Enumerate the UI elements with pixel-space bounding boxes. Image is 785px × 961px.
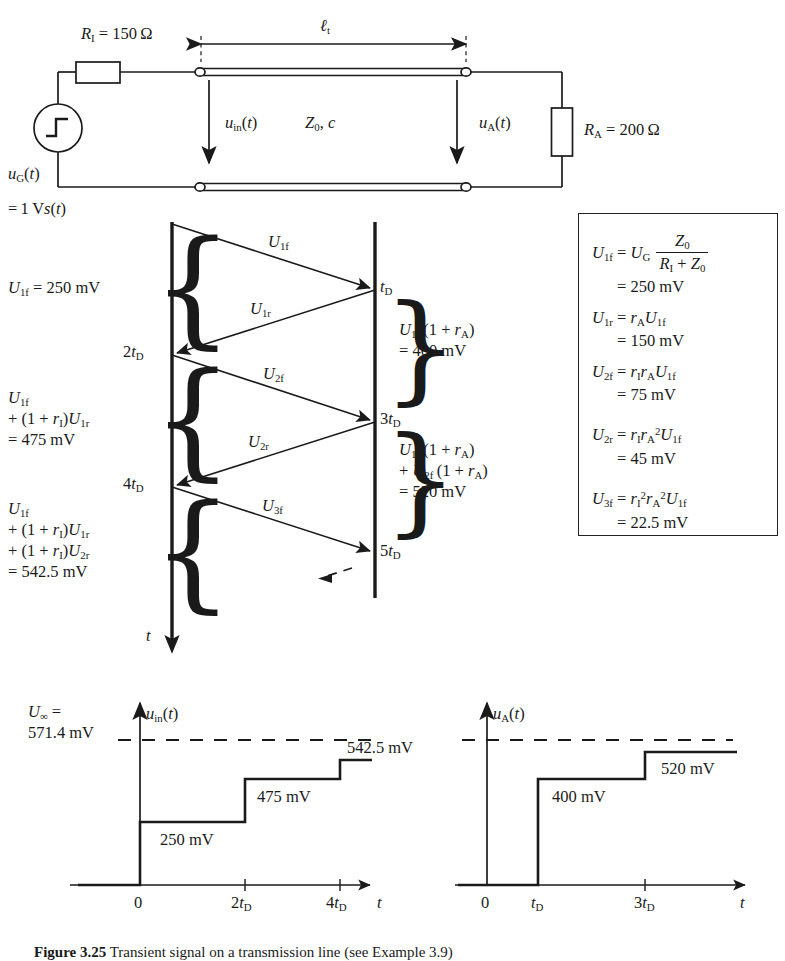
plot-left-origin: 0: [134, 893, 142, 912]
plot-right-tick-label-td: tD: [531, 893, 543, 914]
plot-right-step-400: 400 mV: [552, 787, 606, 806]
lattice-label-u2r: U2r: [248, 432, 269, 453]
lattice-label-u2f: U2f: [263, 364, 284, 385]
resistor-ri-body: [76, 62, 120, 83]
formula-entry-u3f: U3f = rI2rA2U1f: [592, 489, 687, 510]
brace-left-1: {: [152, 222, 233, 352]
lattice-annotation-left-2: U1f + (1 + rI)U1r = 475 mV: [8, 388, 89, 449]
lattice-time-axis-label: t: [146, 626, 151, 645]
formula-result-u3f: = 22.5 mV: [617, 513, 688, 532]
continuation-arrow: [318, 568, 352, 583]
label-u-g-value: = 1 Vs(t): [8, 199, 66, 218]
brace-left-2: {: [152, 354, 233, 484]
lattice-annotation-left-3: U1f + (1 + rI)U1r + (1 + rI)U2r = 542.5 …: [8, 499, 89, 581]
plot-left-step-250: 250 mV: [160, 830, 214, 849]
label-line-length: ℓt: [320, 16, 330, 37]
label-ra: RA = 200 Ω: [584, 120, 660, 141]
plot-asymptote-label: U∞ =571.4 mV: [28, 702, 94, 742]
label-ri: RI = 150 Ω: [81, 24, 153, 45]
plot-left-x-label: t: [377, 893, 382, 912]
plot-u-in: [70, 703, 378, 891]
formula-result-u1r: = 150 mV: [617, 331, 684, 350]
label-u-in: uin(t): [225, 113, 257, 134]
figure-caption: Figure 3.25 Transient signal on a transm…: [34, 944, 754, 961]
formula-result-u2r: = 45 mV: [617, 449, 676, 468]
formula-entry-u1f: U1f = UG Z0 RI + Z0: [592, 232, 710, 276]
lattice-time-4td: 4tD: [123, 474, 144, 495]
plot-left-step-5425: 542.5 mV: [347, 738, 413, 757]
label-u-a: uA(t): [479, 113, 511, 134]
formula-result-u2f: = 75 mV: [617, 385, 676, 404]
plot-right-origin: 0: [481, 893, 489, 912]
brace-left-3: {: [152, 486, 233, 616]
lattice-annotation-right-1: U1f (1 + rA) = 400 mV: [399, 320, 474, 360]
plot-right-tick-label-3td: 3tD: [634, 893, 655, 914]
resistor-ra-body: [552, 108, 573, 156]
plot-left-step-475: 475 mV: [257, 787, 311, 806]
plot-right-y-label: uA(t): [493, 704, 525, 725]
plot-left-waveform: [78, 760, 372, 885]
figure-caption-text: Transient signal on a transmission line …: [110, 944, 453, 960]
lattice-annotation-right-2: U1f (1 + rA) + U2f (1 + rA) = 520 mV: [399, 440, 488, 501]
figure-caption-label: Figure 3.25: [34, 944, 106, 960]
plot-left-tick-label-2td: 2tD: [231, 893, 252, 914]
formula-entry-u2f: U2f = rIrAU1f: [592, 362, 676, 383]
plot-right-step-520: 520 mV: [661, 759, 715, 778]
label-u-g: uG(t): [8, 164, 40, 185]
lattice-label-u3f: U3f: [262, 496, 283, 517]
plot-right-x-label: t: [740, 893, 745, 912]
step-source-symbol: [34, 104, 82, 152]
formula-result-u1f: = 250 mV: [617, 277, 684, 296]
lattice-label-u1f: U1f: [268, 232, 289, 253]
lattice-annotation-left-1: U1f = 250 mV: [8, 278, 100, 299]
plot-left-y-label: uin(t): [146, 704, 178, 725]
lattice-time-2td: 2tD: [123, 342, 144, 363]
length-dimension: [201, 36, 466, 62]
lattice-label-u1r: U1r: [250, 299, 271, 320]
formula-entry-u2r: U2r = rIrA2U1f: [592, 425, 681, 446]
plot-left-tick-label-4td: 4tD: [326, 893, 347, 914]
label-line-params: Z0, c: [305, 113, 335, 134]
formula-entry-u1r: U1r = rAU1f: [592, 308, 666, 329]
